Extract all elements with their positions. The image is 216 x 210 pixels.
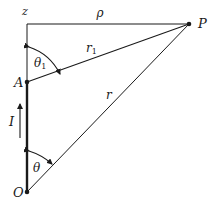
r-label: r bbox=[106, 88, 113, 102]
theta-label: θ bbox=[33, 161, 41, 175]
point-O-dot bbox=[25, 190, 30, 195]
theta1-label-sub: 1 bbox=[41, 62, 46, 71]
diagram-canvas: z ρ P A O r1 r θ1 θ I bbox=[0, 0, 216, 210]
z-axis-label: z bbox=[21, 5, 28, 18]
point-P-dot bbox=[187, 22, 192, 27]
point-A-dot bbox=[25, 80, 30, 85]
point-O-label: O bbox=[13, 185, 24, 200]
r1-label: r1 bbox=[86, 41, 97, 56]
rho-label: ρ bbox=[95, 6, 103, 20]
r1-line bbox=[27, 24, 189, 82]
current-label: I bbox=[8, 114, 15, 129]
point-A-label: A bbox=[13, 75, 23, 90]
r-line bbox=[27, 24, 189, 192]
r1-label-sub: 1 bbox=[92, 47, 97, 56]
point-P-label: P bbox=[197, 16, 207, 31]
theta1-label: θ1 bbox=[34, 56, 46, 71]
